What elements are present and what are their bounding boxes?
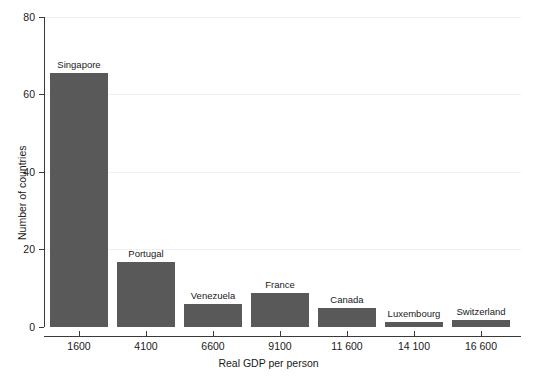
y-tick-mark-60 bbox=[39, 94, 44, 95]
bar-4100 bbox=[117, 262, 175, 327]
bar-14100 bbox=[385, 322, 443, 327]
bar-label-france: France bbox=[265, 280, 295, 290]
y-tick-label-80: 80 bbox=[0, 12, 35, 23]
y-tick-mark-80 bbox=[39, 17, 44, 18]
y-tick-label-60: 60 bbox=[0, 89, 35, 100]
bar-label-switzerland: Switzerland bbox=[456, 307, 505, 317]
x-tick-mark-11600 bbox=[347, 331, 348, 336]
x-tick-label-4100: 4100 bbox=[134, 340, 157, 352]
y-tick-20: 20 bbox=[0, 244, 35, 255]
y-axis-line bbox=[44, 17, 45, 327]
x-tick-mark-6600 bbox=[213, 331, 214, 336]
bar-1600 bbox=[50, 73, 108, 327]
bar-11600 bbox=[318, 308, 376, 327]
y-tick-mark-40 bbox=[39, 172, 44, 173]
x-tick-mark-16600 bbox=[481, 331, 482, 336]
x-tick-label-9100: 9100 bbox=[268, 340, 291, 352]
x-axis-line bbox=[44, 336, 521, 337]
gridline-60 bbox=[45, 94, 521, 95]
x-tick-mark-1600 bbox=[79, 331, 80, 336]
y-tick-0: 0 bbox=[0, 322, 35, 333]
y-tick-label-20: 20 bbox=[0, 244, 35, 255]
gridline-20 bbox=[45, 249, 521, 250]
gridline-40 bbox=[45, 172, 521, 173]
y-tick-mark-0 bbox=[39, 327, 44, 328]
y-tick-60: 60 bbox=[0, 89, 35, 100]
x-tick-label-6600: 6600 bbox=[201, 340, 224, 352]
y-tick-label-0: 0 bbox=[0, 322, 35, 333]
x-tick-mark-4100 bbox=[146, 331, 147, 336]
histogram-chart: 80 60 40 20 0 Number of countries Singap… bbox=[0, 0, 537, 376]
gridline-80 bbox=[45, 17, 521, 18]
x-tick-label-16600: 16 600 bbox=[465, 340, 497, 352]
bar-label-canada: Canada bbox=[330, 295, 363, 305]
bar-label-venezuela: Venezuela bbox=[191, 291, 235, 301]
y-tick-mark-20 bbox=[39, 249, 44, 250]
x-tick-label-14100: 14 100 bbox=[398, 340, 430, 352]
y-tick-80: 80 bbox=[0, 12, 35, 23]
bar-label-singapore: Singapore bbox=[57, 60, 100, 70]
bar-6600 bbox=[184, 304, 242, 327]
bar-label-luxembourg: Luxembourg bbox=[388, 309, 441, 319]
bar-label-portugal: Portugal bbox=[128, 249, 163, 259]
y-axis-title: Number of countries bbox=[16, 145, 28, 240]
x-tick-mark-9100 bbox=[280, 331, 281, 336]
x-tick-mark-14100 bbox=[414, 331, 415, 336]
x-axis-title: Real GDP per person bbox=[0, 357, 537, 369]
bar-9100 bbox=[251, 293, 309, 327]
x-tick-label-1600: 1600 bbox=[67, 340, 90, 352]
x-tick-label-11600: 11 600 bbox=[331, 340, 362, 352]
bar-16600 bbox=[452, 320, 510, 327]
